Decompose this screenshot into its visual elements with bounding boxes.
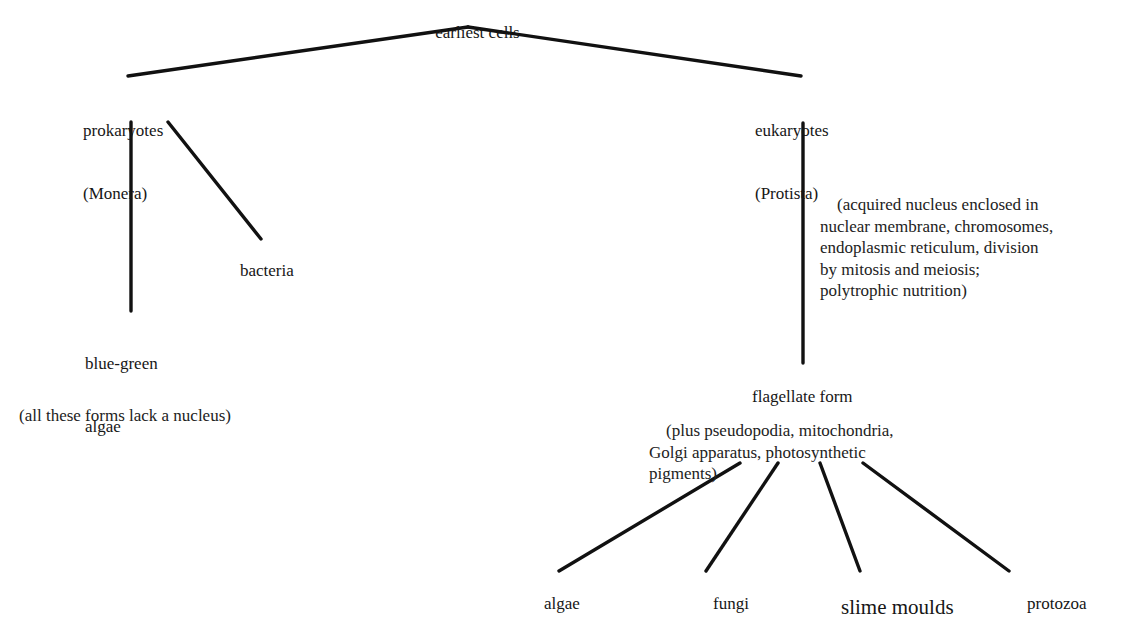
node-slime-moulds: slime moulds: [820, 569, 1000, 618]
annotation-eukaryote-note: (acquired nucleus enclosed in nuclear me…: [820, 173, 1140, 323]
node-bacteria-label: bacteria: [240, 261, 294, 280]
node-prokaryotes: prokaryotes (Monera): [83, 80, 263, 246]
annotation-eukaryote-note-text: (acquired nucleus enclosed in nuclear me…: [820, 195, 1053, 300]
node-bacteria: bacteria: [223, 240, 343, 302]
node-slime-moulds-label: slime moulds: [841, 595, 954, 618]
node-fungi: fungi: [696, 573, 806, 618]
annotation-flagellate-note: (plus pseudopodia, mitochondria, Golgi a…: [649, 399, 989, 506]
node-earliest-cells: earliest cells: [404, 2, 534, 64]
annotation-prokaryote-note-text: (all these forms lack a nucleus): [19, 406, 231, 425]
annotation-prokaryote-note: (all these forms lack a nucleus): [2, 384, 332, 448]
node-protozoa: protozoa: [1010, 573, 1130, 618]
node-eukaryotes-label: eukaryotes: [755, 121, 935, 142]
node-blue-green-algae-label: blue-green: [85, 354, 265, 375]
node-prokaryotes-label: prokaryotes: [83, 121, 263, 142]
node-prokaryotes-sublabel: (Monera): [83, 184, 263, 205]
node-earliest-cells-label: earliest cells: [435, 23, 520, 42]
node-algae: algae: [527, 573, 637, 618]
node-fungi-label: fungi: [713, 594, 749, 613]
node-algae-label: algae: [544, 594, 580, 613]
node-protozoa-label: protozoa: [1027, 594, 1086, 613]
annotation-flagellate-note-text: (plus pseudopodia, mitochondria, Golgi a…: [649, 421, 894, 483]
